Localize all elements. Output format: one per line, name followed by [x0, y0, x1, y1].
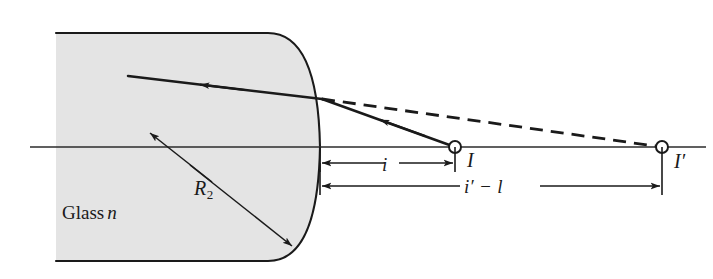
- glass-medium-word: Glass: [62, 202, 104, 223]
- radius-symbol: R: [194, 177, 206, 199]
- diagram-canvas: [0, 0, 713, 279]
- object-distance-label: i: [382, 155, 387, 174]
- virtual-ray-dashed: [322, 99, 662, 147]
- refractive-index-symbol: n: [104, 202, 117, 223]
- image-distance-expression-label: i′ − l: [464, 177, 503, 196]
- image-point-label: I: [467, 150, 474, 170]
- refracted-ray-direction-arrow: [380, 120, 425, 136]
- optics-refraction-diagram: Glassn R2 i I I′ i′ − l: [0, 0, 713, 279]
- virtual-image-point-label: I′: [674, 151, 685, 171]
- glass-medium-label: Glassn: [62, 203, 117, 222]
- radius-of-curvature-label: R2: [194, 178, 213, 201]
- radius-subscript: 2: [206, 187, 213, 202]
